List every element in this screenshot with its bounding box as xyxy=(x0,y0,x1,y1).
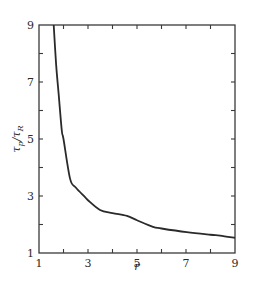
y-tick-label: 9 xyxy=(27,19,34,32)
y-tick-label: 5 xyxy=(27,133,34,146)
axis-ticks xyxy=(39,25,235,253)
y-axis-label: τp/τR xyxy=(10,125,25,152)
x-axis-label: r xyxy=(134,260,140,273)
x-tick-label: 9 xyxy=(232,257,239,270)
y-tick-label: 1 xyxy=(27,247,34,260)
y-axis-tick-labels: 13579 xyxy=(27,19,34,260)
plot-border xyxy=(39,25,235,253)
chart-figure: 13579 13579 r τp/τR xyxy=(0,0,256,288)
x-tick-label: 3 xyxy=(85,257,92,270)
y-tick-label: 7 xyxy=(27,76,34,89)
x-tick-label: 1 xyxy=(36,257,43,270)
data-curve xyxy=(54,25,235,238)
x-tick-label: 7 xyxy=(183,257,190,270)
y-tick-label: 3 xyxy=(27,190,34,203)
plot-frame xyxy=(39,25,235,253)
